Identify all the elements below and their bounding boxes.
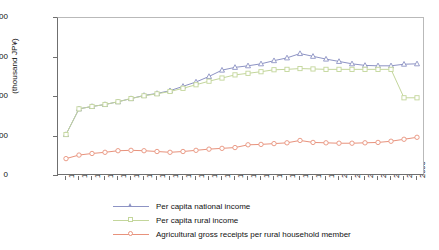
legend-item-3[interactable]: Agricultural gross receipts per rural ho…	[113, 227, 351, 241]
x-axis-tick	[286, 176, 287, 180]
data-point	[207, 79, 211, 83]
x-axis-tick	[130, 176, 131, 180]
data-point	[324, 56, 329, 61]
data-point	[220, 146, 224, 150]
data-point	[116, 100, 120, 104]
x-axis-tick	[65, 176, 66, 180]
plot-area	[57, 17, 424, 175]
data-point	[233, 73, 237, 77]
x-axis-tick	[234, 176, 235, 180]
data-point	[285, 55, 290, 60]
data-point	[363, 63, 368, 68]
y-axis-tick-label: 3,000	[0, 53, 8, 61]
legend-item-2[interactable]: Per capita rural income	[113, 213, 351, 227]
data-point	[103, 102, 107, 106]
data-point	[259, 70, 263, 74]
data-point	[168, 89, 172, 93]
x-axis-tick	[104, 176, 105, 180]
x-axis-tick	[247, 176, 248, 180]
x-axis-tick	[273, 176, 274, 180]
data-point	[402, 62, 407, 67]
data-point	[181, 86, 185, 90]
y-axis-title: (thousand JP¥)	[10, 16, 24, 116]
data-point	[363, 141, 367, 145]
data-point	[285, 67, 289, 71]
x-axis-tick	[169, 176, 170, 180]
legend-swatch-icon	[113, 215, 149, 225]
data-point	[272, 141, 276, 145]
data-point	[337, 67, 341, 71]
y-axis-tick-label: 2,000	[0, 92, 8, 100]
data-point	[337, 141, 341, 145]
x-axis-tick	[260, 176, 261, 180]
data-point	[311, 67, 315, 71]
data-point	[90, 151, 94, 155]
x-axis-tick	[78, 176, 79, 180]
x-axis-tick	[416, 176, 417, 180]
y-axis-tick-label: 4,000	[0, 13, 8, 21]
data-point	[77, 107, 81, 111]
data-point	[207, 147, 211, 151]
legend-swatch-icon	[113, 201, 149, 211]
data-point	[142, 149, 146, 153]
data-point	[337, 59, 342, 64]
x-axis-tick	[156, 176, 157, 180]
x-axis-tick	[221, 176, 222, 180]
data-point	[311, 54, 316, 59]
data-point	[129, 148, 133, 152]
data-point	[90, 104, 94, 108]
legend-label: Agricultural gross receipts per rural ho…	[156, 230, 351, 239]
data-point	[350, 67, 354, 71]
legend-marker-icon	[128, 231, 133, 236]
legend-marker-icon	[128, 203, 132, 207]
x-axis-tick	[351, 176, 352, 180]
data-point	[64, 132, 68, 136]
x-axis-tick	[312, 176, 313, 180]
data-point	[77, 153, 81, 157]
x-axis-tick	[299, 176, 300, 180]
y-axis-tick-label: 0	[0, 171, 8, 179]
chart-container: (thousand JP¥) 01,0002,0003,0004,000 197…	[0, 0, 439, 250]
data-point	[272, 58, 277, 63]
data-point	[64, 156, 68, 160]
data-point	[246, 71, 250, 75]
data-point	[155, 92, 159, 96]
data-point	[181, 149, 185, 153]
data-point	[155, 149, 159, 153]
data-point	[259, 142, 263, 146]
series-1	[64, 51, 420, 137]
data-point	[285, 141, 289, 145]
x-axis-tick	[143, 176, 144, 180]
data-point	[194, 148, 198, 152]
legend-label: Per capita rural income	[156, 216, 238, 225]
series-lines	[58, 18, 425, 176]
data-point	[376, 140, 380, 144]
data-point	[415, 61, 420, 66]
data-point	[350, 61, 355, 66]
data-point	[376, 67, 380, 71]
x-axis-tick	[364, 176, 365, 180]
data-point	[389, 139, 393, 143]
x-axis-tick	[390, 176, 391, 180]
data-point	[350, 141, 354, 145]
x-axis-tick	[325, 176, 326, 180]
data-point	[415, 96, 419, 100]
data-point	[298, 51, 303, 56]
x-axis-tick	[91, 176, 92, 180]
data-point	[233, 65, 238, 70]
data-point	[363, 67, 367, 71]
x-axis-tick	[377, 176, 378, 180]
data-point	[298, 138, 302, 142]
data-point	[259, 61, 264, 66]
data-point	[324, 67, 328, 71]
data-point	[324, 141, 328, 145]
data-point	[233, 145, 237, 149]
data-point	[272, 68, 276, 72]
data-point	[246, 63, 251, 68]
data-point	[116, 149, 120, 153]
legend-item-1[interactable]: Per capita national income	[113, 199, 351, 213]
data-point	[220, 76, 224, 80]
legend-label: Per capita national income	[156, 202, 250, 211]
x-axis-tick	[182, 176, 183, 180]
data-point	[415, 135, 419, 139]
